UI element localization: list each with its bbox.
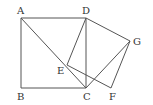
segment-cg bbox=[86, 41, 130, 88]
segment-gf bbox=[111, 41, 130, 88]
label-g: G bbox=[133, 36, 141, 47]
label-b: B bbox=[17, 91, 24, 102]
label-e: E bbox=[57, 65, 64, 76]
segment-dg bbox=[86, 18, 130, 41]
label-d: D bbox=[82, 5, 90, 16]
diagonal-ac bbox=[21, 18, 86, 88]
label-a: A bbox=[16, 5, 25, 16]
segment-de bbox=[67, 18, 86, 65]
geometry-diagram: A B C D E F G bbox=[0, 0, 153, 105]
label-c: C bbox=[83, 91, 91, 102]
label-f: F bbox=[109, 91, 116, 102]
